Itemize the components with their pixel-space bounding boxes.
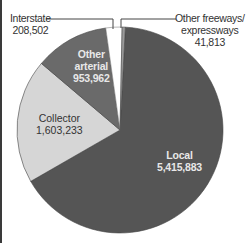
label-other-freeways-value: 41,813 (175, 36, 245, 48)
label-collector-value: 1,603,233 (36, 124, 83, 136)
label-other-arterial-name-1: Other (73, 48, 110, 60)
label-other-arterial: Other arterial 953,962 (73, 48, 110, 84)
label-other-arterial-value: 953,962 (73, 72, 110, 84)
label-interstate-value: 208,502 (10, 24, 51, 36)
label-other-freeways-name-2: expressways (175, 24, 245, 36)
label-interstate: Interstate 208,502 (10, 12, 51, 36)
label-local-name: Local (157, 149, 202, 161)
label-collector: Collector 1,603,233 (36, 112, 83, 136)
label-collector-name: Collector (36, 112, 83, 124)
label-local-value: 5,415,883 (157, 161, 202, 173)
leader-line-other-freeways (121, 19, 176, 28)
label-other-freeways: Other freeways/ expressways 41,813 (175, 12, 245, 48)
label-local: Local 5,415,883 (157, 149, 202, 173)
label-other-arterial-name-2: arterial (73, 60, 110, 72)
label-interstate-name: Interstate (10, 12, 51, 24)
label-other-freeways-name-1: Other freeways/ (175, 12, 245, 24)
leader-line-interstate (46, 19, 113, 29)
